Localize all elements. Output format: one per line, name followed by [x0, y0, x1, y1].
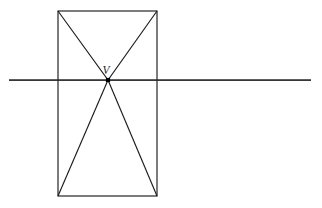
geometry-figure-svg: V — [0, 0, 322, 208]
figure-canvas: V — [0, 0, 322, 208]
bounding-rectangle — [58, 11, 157, 196]
lower-triangle-right-leg — [108, 80, 157, 196]
lower-triangle-left-leg — [58, 80, 108, 196]
vertex-point-marker — [106, 78, 110, 82]
vertex-label-v: V — [102, 64, 111, 76]
